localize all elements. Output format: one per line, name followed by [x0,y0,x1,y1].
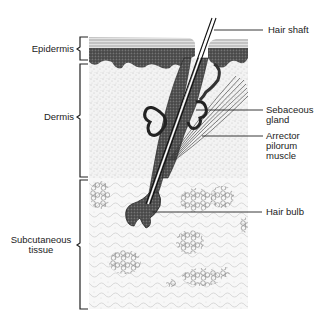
subcutaneous-label-line2: tissue [8,245,74,255]
subcutaneous-bracket [77,180,88,309]
layer-brackets [77,37,88,309]
arrector-pilorum-label-line3: muscle [266,151,300,161]
epidermis-label: Epidermis [14,44,74,54]
epidermis-bracket [77,37,88,60]
hair-shaft-label: Hair shaft [268,25,309,35]
sebaceous-gland-label-line2: gland [266,115,314,125]
hair-bulb-label: Hair bulb [266,207,304,217]
dermis-bracket [77,64,88,177]
stratum-corneum [89,37,195,48]
sebaceous-gland-label: Sebaceous gland [266,105,314,125]
subcutaneous-label: Subcutaneous tissue [8,235,74,255]
arrector-pilorum-label: Arrector pilorum muscle [266,131,300,161]
dermis-label: Dermis [14,112,74,122]
